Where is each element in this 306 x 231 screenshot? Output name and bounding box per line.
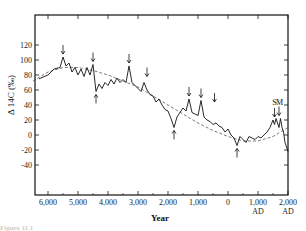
y-tick-label: 120 xyxy=(20,41,32,50)
y-tick-label: -40 xyxy=(21,161,32,170)
y-tick-label: -20 xyxy=(21,146,32,155)
data-line xyxy=(39,57,288,152)
y-tick-label: 80 xyxy=(24,71,32,80)
caption: Figure 11.1 xyxy=(0,224,33,231)
trend-line xyxy=(33,68,288,142)
x-tick-label: 4,000 xyxy=(99,198,117,207)
x-tick-label: 1,000 xyxy=(249,198,267,207)
x-tick-label: 3,000 xyxy=(129,198,147,207)
chart: 120100806040200-20-40 6,0005,0004,0003,0… xyxy=(0,0,306,231)
y-tick-label: 60 xyxy=(24,86,32,95)
annotations: SM xyxy=(61,45,283,158)
y-axis: 120100806040200-20-40 xyxy=(20,41,39,170)
y-tick-label: 40 xyxy=(24,101,32,110)
x-axis-title: Year xyxy=(151,213,169,223)
y-tick-label: 20 xyxy=(24,116,32,125)
annotation-label: M xyxy=(276,98,283,107)
right-ticks xyxy=(284,45,288,165)
x-tick-sublabel: AD xyxy=(252,207,264,216)
x-tick-label: 1,000 xyxy=(189,198,207,207)
y-tick-label: 0 xyxy=(28,131,32,140)
x-tick-label: 0 xyxy=(226,198,230,207)
x-tick-label: 2,000 xyxy=(279,198,297,207)
y-tick-label: 100 xyxy=(20,56,32,65)
x-tick-sublabel: AD xyxy=(282,207,294,216)
x-tick-label: 2,000 xyxy=(159,198,177,207)
y-axis-title: Δ 14C (‰) xyxy=(6,75,16,115)
x-tick-label: 5,000 xyxy=(69,198,87,207)
x-tick-label: 6,000 xyxy=(39,198,57,207)
